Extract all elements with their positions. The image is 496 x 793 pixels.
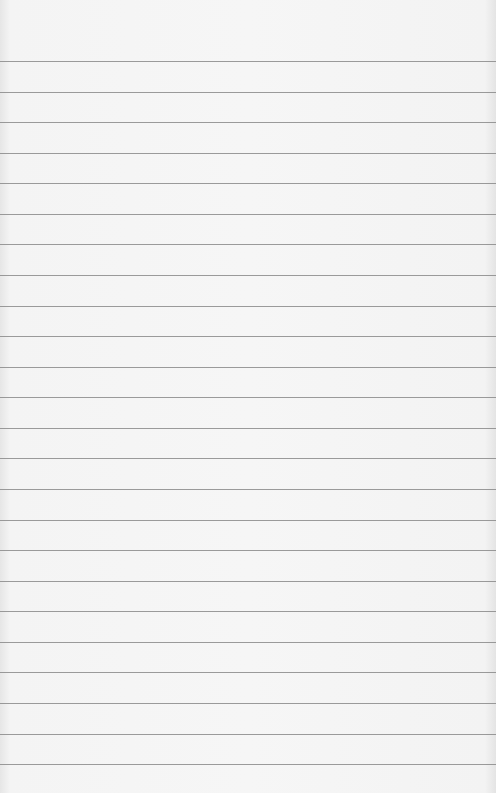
ruled-line (0, 275, 496, 276)
ruled-line (0, 550, 496, 551)
ruled-line (0, 520, 496, 521)
ruled-line (0, 183, 496, 184)
ruled-line (0, 92, 496, 93)
ruled-line (0, 764, 496, 765)
ruled-line (0, 428, 496, 429)
ruled-line (0, 458, 496, 459)
ruled-line (0, 489, 496, 490)
ruled-line (0, 61, 496, 62)
ruled-line (0, 642, 496, 643)
ruled-line (0, 153, 496, 154)
ruled-line (0, 336, 496, 337)
ruled-line (0, 397, 496, 398)
ruled-line (0, 734, 496, 735)
ruled-line (0, 581, 496, 582)
lined-paper (0, 0, 496, 793)
ruled-line (0, 672, 496, 673)
ruled-line (0, 244, 496, 245)
ruled-line (0, 703, 496, 704)
ruled-line (0, 214, 496, 215)
ruled-line (0, 306, 496, 307)
ruled-line (0, 122, 496, 123)
ruled-line (0, 367, 496, 368)
ruled-line (0, 611, 496, 612)
